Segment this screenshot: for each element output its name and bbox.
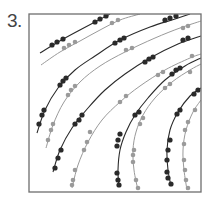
data-point-marker [69, 88, 74, 93]
data-point-marker [73, 168, 78, 173]
data-point-marker [76, 117, 81, 122]
data-point-marker [131, 153, 136, 158]
data-point-marker [167, 137, 172, 142]
curve-line [72, 54, 201, 188]
data-point-marker [168, 82, 173, 87]
data-point-marker [73, 40, 78, 45]
data-point-marker [164, 169, 169, 174]
data-point-marker [63, 75, 68, 80]
data-point-marker [71, 178, 76, 183]
data-point-marker [182, 158, 187, 163]
data-point-marker [165, 175, 170, 180]
data-point-marker [164, 157, 169, 162]
data-point-marker [156, 73, 161, 78]
data-point-marker [88, 130, 93, 135]
data-point-marker [131, 160, 136, 165]
data-point-marker [141, 116, 146, 121]
data-point-marker [134, 178, 139, 183]
data-point-marker [186, 120, 191, 125]
data-point-marker [167, 15, 172, 20]
data-point-marker [132, 148, 137, 153]
data-point-marker [117, 131, 122, 136]
data-point-marker [182, 142, 187, 147]
data-point-marker [185, 35, 190, 40]
data-point-marker [82, 148, 87, 153]
curve-line [37, 14, 190, 133]
data-point-marker [184, 178, 189, 183]
curve-line [53, 36, 201, 172]
data-point-marker [62, 46, 67, 51]
data-point-marker [70, 183, 75, 188]
data-point-marker [121, 35, 126, 40]
data-point-marker [183, 128, 188, 133]
data-point-marker [162, 17, 167, 22]
data-point-marker [92, 19, 97, 24]
data-point-marker [51, 122, 56, 127]
data-point-marker [36, 121, 41, 126]
curve-5-dark [164, 87, 201, 186]
data-point-marker [138, 122, 143, 127]
data-point-marker [60, 36, 65, 41]
curve-group [36, 13, 201, 190]
data-point-marker [52, 165, 57, 170]
data-point-marker [97, 16, 102, 21]
plot-area [0, 0, 212, 201]
data-point-marker [66, 93, 71, 98]
data-point-marker [114, 170, 119, 175]
data-point-marker [186, 186, 191, 191]
data-point-marker [54, 39, 59, 44]
data-point-marker [193, 108, 198, 113]
data-point-marker [39, 112, 44, 117]
data-point-marker [136, 186, 141, 191]
data-point-marker [163, 86, 168, 91]
curve-5-gray [182, 100, 201, 190]
data-point-marker [116, 18, 121, 23]
data-point-marker [191, 91, 196, 96]
data-point-marker [188, 70, 193, 75]
data-point-marker [177, 65, 182, 70]
data-point-marker [150, 54, 155, 59]
data-point-marker [183, 168, 188, 173]
data-point-marker [67, 43, 72, 48]
data-point-marker [165, 147, 170, 152]
data-point-marker [195, 87, 200, 92]
data-point-marker [118, 100, 123, 105]
data-point-marker [46, 138, 51, 143]
data-point-marker [58, 147, 63, 152]
data-point-marker [115, 137, 120, 142]
curve-2-dark [36, 13, 190, 133]
data-point-marker [124, 48, 129, 53]
data-point-marker [124, 94, 129, 99]
data-point-marker [72, 121, 77, 126]
data-point-marker [130, 46, 135, 51]
data-point-marker [186, 24, 191, 29]
data-point-marker [114, 143, 119, 148]
data-point-marker [41, 107, 46, 112]
data-point-marker [190, 54, 195, 59]
data-point-marker [116, 182, 121, 187]
curve-1-dark [40, 13, 110, 53]
data-point-marker [73, 84, 78, 89]
curve-3-dark [52, 35, 201, 172]
data-point-marker [112, 40, 117, 45]
data-point-marker [161, 70, 166, 75]
data-point-marker [49, 128, 54, 133]
data-point-marker [49, 42, 54, 47]
data-point-marker [115, 177, 120, 182]
data-point-marker [110, 21, 115, 26]
data-point-marker [55, 155, 60, 160]
data-point-marker [79, 112, 84, 117]
data-point-marker [181, 26, 186, 31]
data-point-marker [136, 109, 141, 114]
data-point-marker [85, 140, 90, 145]
data-point-marker [180, 37, 185, 42]
data-point-marker [177, 107, 182, 112]
data-point-marker [169, 71, 174, 76]
data-point-marker [168, 181, 173, 186]
